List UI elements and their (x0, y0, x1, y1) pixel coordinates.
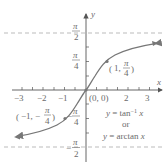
svg-text:4: 4 (74, 117, 79, 127)
equation-annotation: y = tan−1 x or y = arctan x (102, 108, 145, 141)
x-tick-label-m3: −3 (14, 93, 24, 103)
svg-text:−1, −: −1, − (21, 111, 40, 121)
x-axis-label: x (156, 77, 161, 87)
svg-text:): ) (131, 64, 134, 74)
point-1-pi4 (105, 60, 108, 63)
svg-text:π: π (73, 106, 78, 116)
svg-text:4: 4 (124, 68, 129, 78)
y-label-pi-over-4: π 4 (72, 50, 80, 71)
svg-text:): ) (52, 112, 55, 122)
point-label-m1-mpi4: ( −1, − π 4 ) (16, 105, 55, 126)
y-label-pi-over-2: π 2 (72, 21, 80, 42)
svg-text:(: ( (109, 64, 112, 74)
svg-text:1,: 1, (114, 63, 121, 73)
svg-text:π: π (124, 58, 129, 68)
svg-text:2: 2 (74, 32, 79, 42)
svg-text:4: 4 (74, 61, 79, 71)
curve-arrow-right (152, 41, 158, 46)
svg-text:y = arctan x: y = arctan x (102, 131, 145, 141)
svg-text:2: 2 (74, 149, 79, 159)
point-label-1-pi4: ( 1, π 4 ) (109, 58, 134, 78)
point-origin (84, 88, 87, 91)
x-tick-label-2: 2 (124, 93, 129, 103)
svg-text:4: 4 (45, 116, 50, 126)
origin-label: (0, 0) (89, 93, 109, 103)
y-label-minus-pi-over-4: − π 4 (67, 106, 80, 127)
x-tick-label-m1: −1 (58, 93, 68, 103)
svg-text:−: − (67, 111, 72, 121)
x-tick-label-3: 3 (145, 93, 150, 103)
curve-arrow-left (14, 135, 20, 140)
x-tick-label-m2: −2 (37, 93, 47, 103)
arctan-graph: y x −3 −2 −1 2 3 (0, 0) π 2 π 4 − π 4 − … (0, 0, 167, 168)
svg-text:π: π (73, 50, 78, 60)
y-label-minus-pi-over-2: − π 2 (66, 137, 80, 159)
y-axis-label: y (90, 9, 95, 19)
svg-text:π: π (73, 21, 78, 31)
svg-text:π: π (73, 137, 78, 147)
svg-text:y = tan−1 x: y = tan−1 x (105, 108, 143, 118)
svg-text:(: ( (16, 112, 19, 122)
svg-text:π: π (45, 105, 50, 115)
svg-text:or: or (122, 119, 130, 129)
svg-text:−: − (66, 143, 71, 153)
